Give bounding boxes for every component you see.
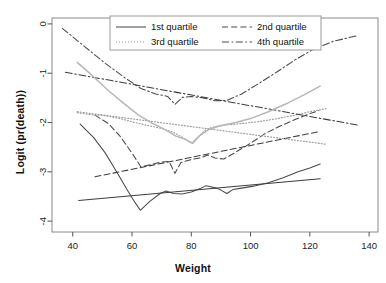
legend-label: 4th quartile bbox=[257, 36, 304, 47]
series-line bbox=[65, 72, 357, 125]
legend-label: 3rd quartile bbox=[151, 36, 199, 47]
y-tick-label: -2 bbox=[37, 118, 48, 126]
chart-figure: Logit (pr(death)) Weight 406080100120140… bbox=[0, 0, 386, 283]
legend-layer: 1st quartile2nd quartile3rd quartile4th … bbox=[110, 16, 321, 50]
x-tick-label: 100 bbox=[243, 240, 259, 251]
x-tick-label: 140 bbox=[361, 240, 377, 251]
y-tick-label: -1 bbox=[37, 69, 48, 77]
x-tick-label: 40 bbox=[67, 240, 78, 251]
legend-label: 2nd quartile bbox=[257, 21, 307, 32]
series-layer bbox=[62, 28, 357, 210]
y-tick-label: -3 bbox=[37, 168, 48, 176]
series-line bbox=[95, 131, 320, 176]
plot-canvas: 4060801001201400-1-2-3-4 1st quartile2nd… bbox=[0, 0, 386, 283]
legend-label: 1st quartile bbox=[151, 21, 197, 32]
axes-layer: 4060801001201400-1-2-3-4 bbox=[37, 18, 378, 251]
series-line bbox=[77, 62, 320, 143]
series-line bbox=[95, 111, 319, 174]
x-tick-label: 60 bbox=[127, 240, 138, 251]
y-tick-label: 0 bbox=[37, 21, 48, 26]
series-line bbox=[79, 179, 321, 201]
x-tick-label: 80 bbox=[186, 240, 197, 251]
series-line bbox=[77, 112, 326, 145]
y-tick-label: -4 bbox=[37, 217, 48, 225]
x-tick-label: 120 bbox=[302, 240, 318, 251]
